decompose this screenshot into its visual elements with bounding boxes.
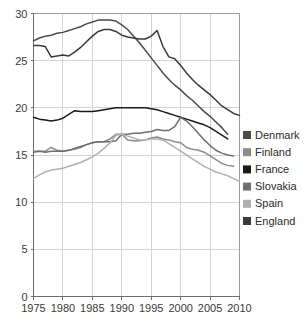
legend-label: England	[255, 215, 295, 227]
legend-item-denmark: Denmark	[243, 129, 300, 141]
x-tick-label: 1985	[80, 302, 104, 314]
x-tick-label: 1995	[139, 302, 163, 314]
legend-swatch-icon	[243, 165, 251, 173]
y-axis-tick-labels: 051015202530	[15, 8, 27, 303]
legend-label: Denmark	[255, 129, 300, 141]
chart-canvas: 051015202530 197519801985199019952000200…	[0, 0, 306, 332]
legend-item-spain: Spain	[243, 197, 283, 209]
y-tick-label: 30	[15, 8, 27, 20]
series-lines-group	[34, 20, 240, 181]
legend-label: France	[255, 163, 289, 175]
legend-item-slovakia: Slovakia	[243, 180, 297, 192]
line-chart-figure: 051015202530 197519801985199019952000200…	[0, 0, 306, 332]
legend-swatch-icon	[243, 217, 251, 225]
y-tick-label: 25	[15, 55, 27, 67]
y-tick-label: 10	[15, 196, 27, 208]
legend-swatch-icon	[243, 200, 251, 208]
x-axis-tick-labels: 19751980198519901995200020052010	[21, 302, 251, 314]
y-tick-label: 20	[15, 102, 27, 114]
chart-legend: DenmarkFinlandFranceSlovakiaSpainEngland	[243, 129, 300, 227]
x-tick-label: 1975	[21, 302, 45, 314]
legend-item-france: France	[243, 163, 289, 175]
series-line-slovakia	[34, 117, 234, 156]
tickmarks-group	[31, 14, 240, 300]
y-tick-label: 15	[15, 149, 27, 161]
legend-swatch-icon	[243, 183, 251, 191]
x-tick-label: 2005	[198, 302, 222, 314]
legend-label: Spain	[255, 197, 283, 209]
x-tick-label: 2000	[168, 302, 192, 314]
legend-swatch-icon	[243, 148, 251, 156]
legend-item-england: England	[243, 215, 295, 227]
series-line-england	[34, 30, 240, 116]
legend-swatch-icon	[243, 131, 251, 139]
legend-label: Slovakia	[255, 180, 297, 192]
legend-item-finland: Finland	[243, 146, 291, 158]
x-tick-label: 1990	[110, 302, 134, 314]
x-tick-label: 2010	[227, 302, 251, 314]
x-tick-label: 1980	[51, 302, 75, 314]
y-tick-label: 5	[21, 243, 27, 255]
legend-label: Finland	[255, 146, 291, 158]
